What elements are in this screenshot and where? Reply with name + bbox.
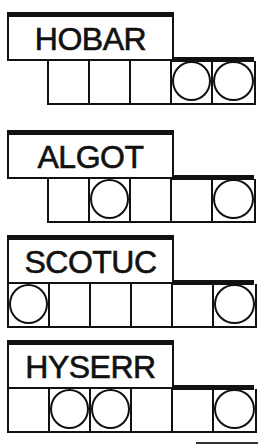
circled-letter-cell[interactable]	[214, 284, 255, 326]
letter-cell[interactable]	[173, 284, 214, 326]
letter-cell[interactable]	[131, 61, 172, 103]
cell-top-border	[172, 385, 254, 390]
circled-letter-cell[interactable]	[9, 284, 50, 326]
divider	[47, 177, 174, 179]
answer-cells	[47, 61, 256, 105]
letter-cell[interactable]	[49, 179, 90, 221]
scrambled-word-box: HOBAR	[7, 12, 174, 61]
scrambled-word: HYSERR	[25, 349, 155, 383]
scrambled-word: HOBAR	[35, 21, 146, 55]
letter-cell[interactable]	[132, 284, 173, 326]
circled-letter-cell[interactable]	[91, 389, 132, 431]
letter-cell[interactable]	[91, 284, 132, 326]
circled-letter-cell[interactable]	[213, 179, 254, 221]
scrambled-word: SCOTUC	[24, 244, 156, 278]
circled-letter-cell[interactable]	[214, 389, 255, 431]
circled-letter-cell[interactable]	[172, 61, 213, 103]
answer-cells	[7, 389, 257, 433]
scrambled-word-box: ALGOT	[7, 130, 174, 179]
cell-top-border	[172, 57, 254, 62]
divider	[7, 282, 174, 284]
cell-top-border	[172, 280, 254, 285]
letter-cell[interactable]	[132, 389, 173, 431]
letter-cell[interactable]	[172, 179, 213, 221]
scrambled-word: ALGOT	[38, 139, 144, 173]
circled-letter-cell[interactable]	[90, 179, 131, 221]
letter-cell[interactable]	[50, 284, 91, 326]
letter-cell[interactable]	[49, 61, 90, 103]
letter-cell[interactable]	[90, 61, 131, 103]
answer-cells	[7, 284, 257, 328]
letter-cell[interactable]	[9, 389, 50, 431]
divider	[7, 387, 174, 389]
cell-top-border	[172, 175, 254, 180]
letter-cell[interactable]	[131, 179, 172, 221]
scrambled-word-box: HYSERR	[7, 340, 174, 389]
circled-letter-cell[interactable]	[213, 61, 254, 103]
circled-letter-cell[interactable]	[50, 389, 91, 431]
answer-cells	[47, 179, 256, 223]
scrambled-word-box: SCOTUC	[7, 235, 174, 284]
letter-cell[interactable]	[173, 389, 214, 431]
cropped-mark	[196, 442, 258, 444]
divider	[47, 59, 174, 61]
